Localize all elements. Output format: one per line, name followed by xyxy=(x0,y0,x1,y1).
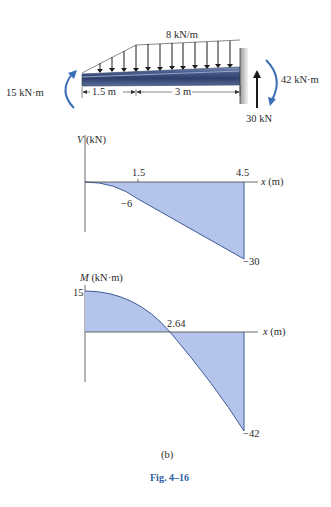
load-arrows xyxy=(100,41,230,71)
distributed-load-label: 8 kN/m xyxy=(166,29,198,40)
moment-diagram: M (kN·m) 15 2.64 x (m) −42 xyxy=(73,272,286,439)
left-moment-arrow xyxy=(65,74,74,108)
reaction-force-label: 30 kN xyxy=(246,113,272,124)
figure-caption: Fig. 4–16 xyxy=(150,472,189,483)
shear-y-axis-label: V (kN) xyxy=(77,134,106,146)
shear-tick-1: 1.5 xyxy=(132,167,145,178)
right-moment-label: 42 kN·m xyxy=(281,74,319,85)
shear-area xyxy=(85,182,244,259)
shear-diagram: V (kN) 1.5 4.5 x (m) −6 −30 xyxy=(77,134,284,267)
shear-value-1: −6 xyxy=(121,198,132,209)
shear-tick-2: 4.5 xyxy=(236,167,249,178)
fixed-wall xyxy=(240,48,248,104)
shear-x-axis-label: x (m) xyxy=(260,176,284,188)
moment-value-end: −42 xyxy=(243,428,259,439)
subfigure-label: (b) xyxy=(161,449,174,461)
dim-1-label: 1.5 m xyxy=(92,86,116,97)
figure-canvas: 8 kN/m 15 kN·m 42 kN·m 30 kN xyxy=(0,0,331,507)
moment-value-start: 15 xyxy=(73,287,84,298)
shear-value-end: −30 xyxy=(243,256,259,267)
moment-x-axis-label: x (m) xyxy=(262,326,286,338)
right-moment-arrow xyxy=(266,60,277,100)
moment-area xyxy=(85,291,244,431)
dim-2-label: 3 m xyxy=(175,86,191,97)
beam-diagram: 8 kN/m 15 kN·m 42 kN·m 30 kN xyxy=(6,29,319,124)
moment-y-axis-label: M (kN·m) xyxy=(79,272,123,284)
moment-zero-crossing: 2.64 xyxy=(167,318,186,329)
left-moment-label: 15 kN·m xyxy=(6,87,44,98)
